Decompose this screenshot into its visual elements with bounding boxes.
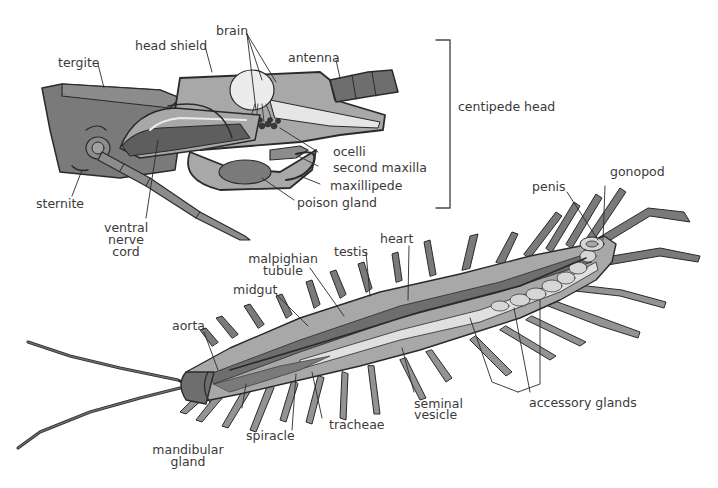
label-seminal-vesicle: seminal vesicle <box>414 398 463 420</box>
label-antenna: antenna <box>288 52 340 64</box>
label-tracheae: tracheae <box>329 419 385 431</box>
label-midgut: midgut <box>233 284 277 296</box>
label-second-maxilla: second maxilla <box>333 162 427 174</box>
label-heart: heart <box>380 233 413 245</box>
label-gonopod: gonopod <box>610 166 665 178</box>
label-testis: testis <box>334 246 368 258</box>
label-ventral-nerve-cord: ventral nerve cord <box>104 222 148 258</box>
label-head-shield: head shield <box>135 40 207 52</box>
label-poison-gland: poison gland <box>297 197 377 209</box>
label-malpighian-tubule-line2: tubule <box>248 265 318 277</box>
label-aorta: aorta <box>172 320 205 332</box>
label-penis: penis <box>532 181 566 193</box>
centipede-anatomy-diagram: tergite head shield brain antenna ocelli… <box>0 0 718 488</box>
label-accessory-glands: accessory glands <box>529 397 637 409</box>
label-malpighian-tubule: malpighian tubule <box>248 253 318 277</box>
label-centipede-head: centipede head <box>458 101 555 113</box>
label-brain: brain <box>216 25 248 37</box>
label-spiracle: spiracle <box>246 430 295 442</box>
label-maxillipede: maxillipede <box>330 180 402 192</box>
label-ventral-nerve-cord-line3: cord <box>104 246 148 258</box>
head-bracket <box>436 40 450 208</box>
label-sternite: sternite <box>36 198 84 210</box>
label-mandibular-gland-line2: gland <box>152 456 224 468</box>
label-mandibular-gland: mandibular gland <box>152 444 224 468</box>
label-tergite: tergite <box>58 57 100 69</box>
label-ocelli: ocelli <box>333 146 366 158</box>
label-seminal-vesicle-line2: vesicle <box>414 409 463 420</box>
